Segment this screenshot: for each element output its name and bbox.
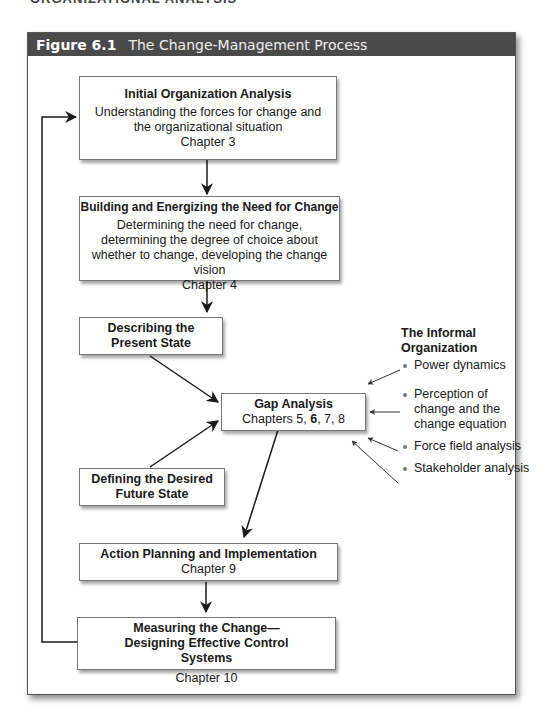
- box-chapter: Chapter 3: [80, 135, 336, 150]
- box-description: Understanding the forces for change and …: [80, 105, 336, 135]
- box-building-need-for-change: Building and Energizing the Need for Cha…: [79, 196, 340, 281]
- arrow-force-field: [368, 438, 398, 451]
- informal-organization-panel: The Informal Organization Power dynamics…: [401, 326, 531, 476]
- box-gap-analysis: Gap Analysis Chapters 5, 6, 7, 8: [221, 393, 366, 431]
- arrow-gap-to-action: [244, 430, 278, 537]
- feedback-loop-line: [42, 117, 83, 642]
- chapters-suffix: , 7, 8: [317, 412, 345, 426]
- informal-organization-heading: The Informal Organization: [401, 326, 531, 356]
- box-measuring-the-change: Measuring the Change—Designing Effective…: [77, 617, 336, 670]
- box-action-planning: Action Planning and Implementation Chapt…: [79, 543, 338, 581]
- arrow-stakeholder: [352, 441, 398, 483]
- box-chapter: Chapter 4: [80, 278, 339, 293]
- box-describing-present-state: Describing the Present State: [79, 317, 223, 355]
- box-chapter: Chapter 9: [80, 562, 337, 577]
- box-title: Describing the Present State: [80, 321, 222, 351]
- box-description: Determining the need for change, determi…: [80, 218, 339, 278]
- box-chapter: Chapter 10: [78, 671, 335, 686]
- box-title: Defining the Desired Future State: [80, 472, 224, 502]
- list-item: Perception of change and the change equa…: [401, 387, 531, 432]
- box-defining-future-state: Defining the Desired Future State: [79, 468, 225, 506]
- arrow-present-to-gap: [150, 356, 218, 402]
- box-initial-organization-analysis: Initial Organization Analysis Understand…: [79, 76, 337, 160]
- box-title: Initial Organization Analysis: [80, 87, 336, 102]
- arrow-future-to-gap: [150, 421, 218, 467]
- list-item: Force field analysis: [401, 439, 531, 454]
- box-title: Gap Analysis: [222, 397, 365, 412]
- box-chapters: Chapters 5, 6, 7, 8: [222, 412, 365, 427]
- box-title: Action Planning and Implementation: [80, 547, 337, 562]
- box-title: Measuring the Change—Designing Effective…: [78, 621, 335, 666]
- chapters-prefix: Chapters 5,: [242, 412, 310, 426]
- box-title: Building and Energizing the Need for Cha…: [80, 200, 339, 215]
- informal-organization-list: Power dynamics Perception of change and …: [401, 358, 531, 476]
- list-item: Stakeholder analysis: [401, 461, 531, 476]
- list-item: Power dynamics: [401, 358, 531, 373]
- arrow-power-dynamics: [368, 370, 400, 384]
